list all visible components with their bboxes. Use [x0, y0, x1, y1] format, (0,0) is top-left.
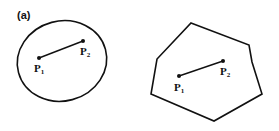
convex-sets-figure: (a) P1 P2 P1 P2 [0, 0, 279, 131]
polygon-boundary [151, 23, 262, 121]
label-p2: P2 [80, 45, 91, 59]
point-p2 [221, 59, 225, 63]
segment-p1-p2 [179, 61, 223, 76]
ellipse-set: P1 P2 [8, 11, 116, 112]
label-p1: P1 [34, 62, 45, 76]
polygon-set: P1 P2 [151, 23, 262, 121]
point-p1 [177, 74, 181, 78]
segment-p1-p2 [39, 41, 83, 58]
label-p2: P2 [220, 65, 231, 79]
panel-label: (a) [17, 9, 31, 21]
label-p1: P1 [174, 81, 185, 95]
point-p2 [81, 39, 85, 43]
point-p1 [37, 56, 41, 60]
ellipse-boundary [8, 11, 116, 112]
